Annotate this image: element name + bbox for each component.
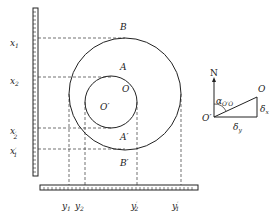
label-B-prime: B′: [119, 158, 129, 168]
label-y2-prime: y′2: [130, 200, 138, 212]
label-north: N: [210, 68, 218, 78]
label-x2: x2: [10, 76, 19, 87]
label-alpha: αO′O: [216, 96, 233, 107]
label-O-prime: O′: [100, 102, 109, 112]
label-A-prime: A′: [119, 132, 129, 142]
diagram-canvas: B A O O′ A′ B′ x1 x2 x′2 x′1 y1 y2 y′2 y…: [0, 0, 278, 222]
label-x1-prime: x′1: [10, 146, 17, 158]
label-O: O: [122, 84, 130, 94]
label-delta-x: δx: [260, 104, 269, 115]
horizontal-ruler: [40, 185, 198, 190]
label-y1: y1: [61, 201, 71, 212]
label-y1-prime: y′1: [171, 200, 179, 212]
y-labels: y1 y2 y′2 y′1: [61, 200, 179, 212]
label-delta-y: δy: [233, 122, 242, 134]
projection-lines: [38, 38, 181, 185]
label-x1: x1: [10, 38, 19, 49]
label-y2: y2: [74, 201, 84, 212]
label-B: B: [119, 22, 127, 32]
label-x2-prime: x′2: [10, 126, 17, 140]
label-inset-O: O: [258, 84, 266, 94]
label-inset-O-prime: O′: [202, 113, 211, 123]
label-A: A: [119, 62, 127, 72]
vertical-ruler: [33, 8, 38, 176]
x-labels: x1 x2 x′2 x′1: [10, 38, 19, 158]
